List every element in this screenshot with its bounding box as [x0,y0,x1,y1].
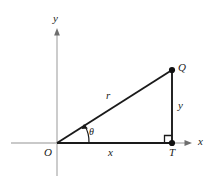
origin-label: O [44,147,52,158]
angle-label-theta: θ [89,127,94,137]
segment-label-x: x [108,147,113,158]
point-label-t: T [169,147,175,158]
y-axis-label: y [53,13,58,24]
x-axis-arrowhead [185,140,193,146]
point-dot-q [169,67,175,73]
y-axis-arrowhead [54,28,60,36]
segment-label-y: y [178,100,183,111]
segment-hypotenuse [57,70,172,143]
x-axis-label: x [198,136,203,147]
polar-coordinate-triangle-figure: y x O Q T r y x θ [0,0,214,186]
point-label-q: Q [178,62,186,73]
segment-label-r: r [106,90,110,101]
